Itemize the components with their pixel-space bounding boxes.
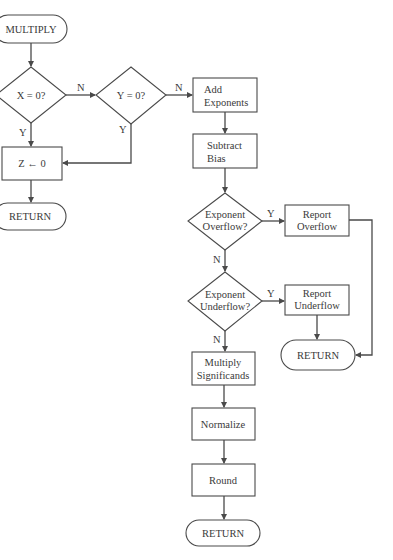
node-return-end: RETURN: [186, 520, 260, 546]
node-label-line2: Underflow: [294, 300, 340, 311]
node-round: Round: [192, 464, 255, 496]
node-x-zero: X = 0?: [0, 67, 66, 123]
edge-label-overflow-yes: Y: [267, 208, 275, 219]
flowchart-canvas: N N Y Y Y N Y N MULTIPLY X = 0? Y = 0? Z…: [0, 0, 393, 560]
edge-label-overflow-no: N: [213, 254, 221, 265]
node-label-line2: Underflow?: [200, 301, 250, 312]
node-label: X = 0?: [17, 90, 46, 101]
node-report-overflow: Report Overflow: [285, 205, 349, 236]
node-return-zero: RETURN: [0, 203, 66, 230]
node-start: MULTIPLY: [0, 15, 67, 43]
node-label: Normalize: [201, 419, 246, 430]
edge-label-underflow-no: N: [213, 334, 221, 345]
node-label-line1: Report: [303, 209, 332, 220]
node-label-line2: Significands: [197, 370, 250, 381]
node-label: RETURN: [202, 528, 244, 539]
node-exponent-underflow: Exponent Underflow?: [188, 272, 262, 331]
node-multiply-significands: Multiply Significands: [192, 352, 255, 385]
node-label-line2: Overflow?: [203, 221, 248, 232]
node-label-line2: Overflow: [297, 221, 338, 232]
node-return-error: RETURN: [281, 340, 355, 370]
node-subtract-bias: Subtract Bias: [193, 134, 257, 168]
node-label-line1: Exponent: [205, 289, 245, 300]
node-label: RETURN: [9, 211, 51, 222]
node-label-line1: Multiply: [205, 357, 243, 368]
node-label: MULTIPLY: [5, 24, 56, 35]
node-label: Z ← 0: [18, 158, 45, 169]
edge-label-xzero-yes: Y: [19, 127, 27, 138]
edge-label-yzero-no: N: [175, 82, 183, 93]
edge-label-xzero-no: N: [77, 82, 85, 93]
node-label: RETURN: [297, 350, 339, 361]
edge-label-yzero-yes: Y: [119, 124, 127, 135]
node-label: Round: [209, 475, 238, 486]
node-label-line2: Bias: [207, 153, 226, 164]
node-exponent-overflow: Exponent Overflow?: [188, 193, 262, 250]
node-report-underflow: Report Underflow: [285, 285, 349, 315]
node-label-line1: Add: [204, 84, 223, 95]
node-z-zero: Z ← 0: [2, 147, 62, 180]
node-label: Y = 0?: [117, 90, 146, 101]
node-add-exponents: Add Exponents: [193, 78, 257, 112]
node-label-line2: Exponents: [204, 97, 248, 108]
node-label-line1: Report: [303, 288, 332, 299]
connectors: [31, 43, 372, 519]
node-normalize: Normalize: [192, 408, 255, 440]
node-y-zero: Y = 0?: [96, 67, 166, 124]
edge-label-underflow-yes: Y: [267, 288, 275, 299]
node-label-line1: Exponent: [205, 209, 245, 220]
node-label-line1: Subtract: [207, 140, 242, 151]
edge-reportoverflow-to-return: [349, 220, 372, 355]
